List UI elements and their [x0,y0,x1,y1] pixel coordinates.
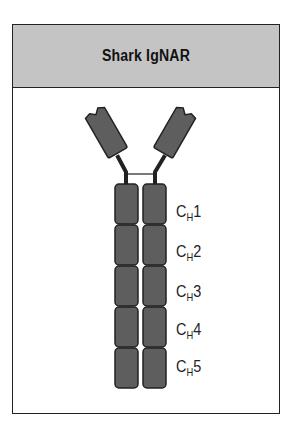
left-variable-domain [84,105,128,158]
domain-label-ch1: CH1 [176,202,201,223]
domain-label-ch2: CH2 [176,242,201,263]
ignar-structure [0,0,300,439]
hinge-region [118,157,164,184]
right-heavy-chain [143,184,166,388]
right-variable-domain [153,105,197,158]
domain-label-ch4: CH4 [176,320,201,341]
left-heavy-chain [115,184,138,388]
domain-label-ch5: CH5 [176,357,201,378]
domain-label-ch3: CH3 [176,282,201,303]
